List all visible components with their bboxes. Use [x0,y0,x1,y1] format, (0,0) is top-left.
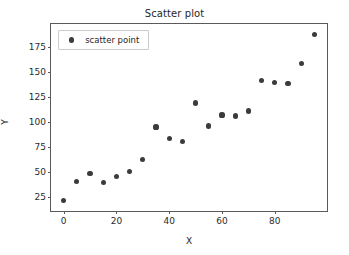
data-point [299,61,304,66]
x-tick-label: 60 [216,216,227,226]
y-tick-label: 175 [29,42,46,52]
data-point [101,180,106,185]
x-tick-label: 80 [269,216,280,226]
x-axis-label: X [50,236,328,246]
y-tick-label: 25 [35,192,46,202]
y-tick-label: 125 [29,92,46,102]
data-point [87,171,92,176]
y-axis-label: Y [0,119,10,125]
x-tick [275,211,276,214]
y-tick-label: 75 [35,142,46,152]
x-tick-label: 0 [61,216,67,226]
legend: scatter point [58,30,149,50]
data-point [167,136,172,141]
figure-canvas: Scatter plot 020406080 25507510012515017… [0,0,349,255]
x-tick [64,211,65,214]
x-tick [222,211,223,214]
y-tick-label: 100 [29,117,46,127]
x-tick [169,211,170,214]
chart-title: Scatter plot [0,8,349,19]
data-point [312,32,317,37]
plot-area: 020406080 255075100125150175 scatter poi… [50,23,328,212]
x-tick-label: 40 [163,216,174,226]
data-point [114,174,119,179]
legend-label: scatter point [85,35,139,45]
data-point [285,81,290,86]
data-point [127,169,132,174]
data-point [193,100,198,105]
y-tick-label: 150 [29,67,46,77]
data-point [219,112,224,117]
data-point [272,80,277,85]
x-tick-label: 20 [111,216,122,226]
y-tick-label: 50 [35,167,46,177]
data-point [180,139,185,144]
legend-marker-icon [69,37,74,42]
data-point [259,78,264,83]
data-point [153,124,158,129]
data-point [233,113,238,118]
data-point [206,123,211,128]
scatter-points-layer [51,24,327,211]
data-point [61,198,66,203]
data-point [74,179,79,184]
data-point [140,157,145,162]
data-point [246,108,251,113]
x-tick [116,211,117,214]
